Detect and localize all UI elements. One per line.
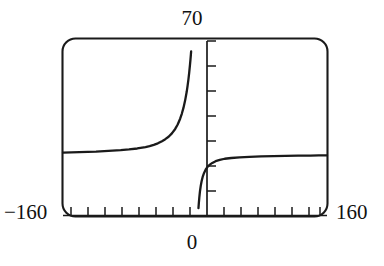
x-origin-label: 0 (0, 232, 384, 253)
y-axis-ticks (207, 41, 216, 191)
x-max-label: 160 (336, 202, 368, 223)
curve-right-branch (198, 155, 327, 208)
x-axis-ticks (71, 207, 320, 215)
plot-canvas (0, 0, 384, 266)
y-max-label: 70 (0, 8, 384, 29)
curve-left-branch (63, 52, 191, 153)
x-min-label: −160 (4, 202, 47, 223)
plot-figure: 70 −160 160 0 (0, 0, 384, 266)
plot-frame (63, 39, 328, 217)
